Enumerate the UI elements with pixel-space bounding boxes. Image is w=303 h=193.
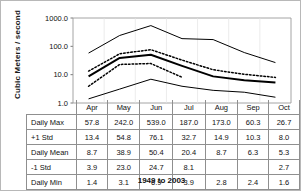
y-tick-label: 100.0 bbox=[49, 42, 68, 51]
chart-plot-area: 1.010.0100.01000.0 bbox=[25, 7, 292, 107]
table-cell: 60.3 bbox=[238, 115, 269, 130]
series-line-daily-min bbox=[89, 79, 276, 99]
table-cell: 20.4 bbox=[173, 145, 206, 160]
y-tick-label: 10.0 bbox=[53, 70, 68, 79]
table-cell: 24.7 bbox=[140, 160, 173, 175]
table-cell: 10.3 bbox=[238, 130, 269, 145]
table-cell: 32.7 bbox=[173, 130, 206, 145]
table-cell: 38.9 bbox=[107, 145, 140, 160]
table-cell bbox=[205, 160, 238, 175]
table-cell: 23.0 bbox=[107, 160, 140, 175]
row-label: +1 Std bbox=[27, 130, 77, 145]
table-cell bbox=[238, 160, 269, 175]
table-row: Daily Max57.8242.0539.0187.0173.060.326.… bbox=[27, 115, 300, 130]
table-cell: 8.1 bbox=[173, 160, 206, 175]
table-cell: 13.4 bbox=[77, 130, 108, 145]
column-header-aug: Aug bbox=[205, 100, 238, 115]
plot-axes bbox=[73, 18, 291, 103]
row-label: Daily Mean bbox=[27, 145, 77, 160]
row-label: -1 Std bbox=[27, 160, 77, 175]
table-cell: 3.9 bbox=[77, 160, 108, 175]
column-header-sep: Sep bbox=[238, 100, 269, 115]
series-line-daily-max bbox=[89, 26, 276, 63]
table-cell: 50.4 bbox=[140, 145, 173, 160]
column-header-may: May bbox=[107, 100, 140, 115]
table-cell: 26.7 bbox=[269, 115, 300, 130]
y-axis-title: Cubic Meters / second bbox=[13, 7, 22, 102]
y-tick-label: 1000.0 bbox=[45, 14, 68, 23]
table-cell: 54.8 bbox=[107, 130, 140, 145]
table-header-row: AprMayJunJulAugSepOct bbox=[27, 100, 300, 115]
table-cell: 8.7 bbox=[205, 145, 238, 160]
table-corner-cell bbox=[27, 100, 77, 115]
table-cell: 8.0 bbox=[269, 130, 300, 145]
y-axis-tick-labels: 1.010.0100.01000.0 bbox=[45, 14, 73, 107]
column-header-jul: Jul bbox=[173, 100, 206, 115]
chart-caption: 1949 to 2003 bbox=[1, 176, 300, 185]
table-cell: 57.8 bbox=[77, 115, 108, 130]
table-row: +1 Std13.454.876.132.714.910.38.0 bbox=[27, 130, 300, 145]
figure-container: Cubic Meters / second 1.010.0100.01000.0… bbox=[0, 0, 301, 191]
table-cell: 539.0 bbox=[140, 115, 173, 130]
table-cell: 242.0 bbox=[107, 115, 140, 130]
table-cell: 8.7 bbox=[77, 145, 108, 160]
data-series-group bbox=[89, 26, 276, 99]
table-cell: 76.1 bbox=[140, 130, 173, 145]
table-cell: 2.7 bbox=[269, 160, 300, 175]
table-cell: 173.0 bbox=[205, 115, 238, 130]
row-label: Daily Max bbox=[27, 115, 77, 130]
column-header-oct: Oct bbox=[269, 100, 300, 115]
table-row: -1 Std3.923.024.78.12.7 bbox=[27, 160, 300, 175]
column-header-apr: Apr bbox=[77, 100, 108, 115]
table-cell: 5.3 bbox=[269, 145, 300, 160]
table-row: Daily Mean8.738.950.420.48.76.35.3 bbox=[27, 145, 300, 160]
line-chart-svg: 1.010.0100.01000.0 bbox=[25, 7, 292, 107]
table-cell: 187.0 bbox=[173, 115, 206, 130]
series-line-daily-mean bbox=[89, 55, 276, 83]
table-cell: 14.9 bbox=[205, 130, 238, 145]
plot-frame bbox=[73, 18, 291, 103]
table-cell: 6.3 bbox=[238, 145, 269, 160]
column-header-jun: Jun bbox=[140, 100, 173, 115]
